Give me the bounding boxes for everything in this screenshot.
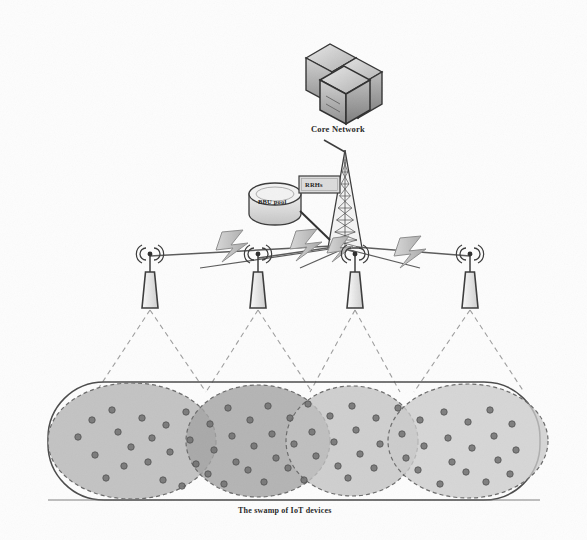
iot-device-dot — [441, 409, 447, 415]
iot-device-dot — [421, 443, 427, 449]
iot-device-dot — [225, 405, 231, 411]
iot-device-dot — [269, 431, 275, 437]
swarm-caption: The swamp of IoT devices — [238, 506, 332, 515]
iot-device-dot — [75, 434, 81, 440]
iot-device-dot — [399, 431, 405, 437]
iot-device-dot — [287, 415, 293, 421]
iot-device-dot — [167, 449, 173, 455]
antenna-4 — [456, 245, 483, 308]
core-network-label: Core Network — [311, 124, 365, 134]
iot-device-dot — [92, 452, 98, 458]
coverage-beams — [96, 310, 524, 392]
iot-device-dot — [371, 465, 377, 471]
iot-device-dot — [145, 459, 151, 465]
iot-device-dot — [345, 475, 351, 481]
antenna-2 — [244, 245, 271, 308]
iot-device-dot — [309, 429, 315, 435]
iot-device-dot — [207, 421, 213, 427]
iot-device-dot — [251, 443, 257, 449]
iot-device-dot — [163, 422, 169, 428]
iot-device-dot — [205, 471, 211, 477]
iot-device-dot — [273, 455, 279, 461]
iot-device-dot — [335, 463, 341, 469]
iot-device-dot — [265, 403, 271, 409]
iot-device-dot — [353, 427, 359, 433]
fronthaul-bolt-4 — [394, 236, 426, 268]
iot-device-dot — [509, 421, 515, 427]
iot-device-dot — [513, 447, 519, 453]
iot-device-dot — [403, 455, 409, 461]
iot-device-dot — [261, 479, 267, 485]
iot-device-dot — [233, 459, 239, 465]
fronthaul-bolt-2 — [290, 229, 322, 261]
iot-device-dot — [179, 483, 185, 489]
iot-device-dot — [121, 463, 127, 469]
iot-device-dot — [305, 401, 311, 407]
bbu-pool-label: BBU pool — [258, 198, 287, 205]
iot-device-dot — [109, 407, 115, 413]
lattice-tower — [328, 150, 362, 248]
iot-device-dot — [115, 429, 121, 435]
iot-device-dot — [128, 444, 134, 450]
antenna-3 — [341, 245, 368, 308]
diagram-canvas: Core Network BBU pool RRHs The swamp of … — [0, 0, 587, 540]
iot-device-dot — [507, 471, 513, 477]
iot-device-dot — [449, 459, 455, 465]
core-network-servers — [306, 44, 382, 124]
iot-device-dot — [89, 417, 95, 423]
iot-device-dot — [247, 417, 253, 423]
coverage-cell-4 — [388, 384, 548, 498]
iot-device-dot — [437, 481, 443, 487]
iot-device-dot — [139, 415, 145, 421]
rrhs-label: RRHs — [305, 181, 323, 188]
iot-device-dot — [285, 465, 291, 471]
iot-device-dot — [373, 415, 379, 421]
iot-device-dot — [313, 453, 319, 459]
iot-device-dot — [415, 467, 421, 473]
iot-device-dot — [377, 441, 383, 447]
iot-device-dot — [193, 461, 199, 467]
iot-device-dot — [103, 475, 109, 481]
iot-device-dot — [149, 435, 155, 441]
iot-device-dot — [211, 447, 217, 453]
iot-device-dot — [357, 451, 363, 457]
iot-device-dot — [349, 403, 355, 409]
iot-device-dot — [245, 467, 251, 473]
iot-device-dot — [487, 407, 493, 413]
iot-device-dot — [187, 437, 193, 443]
iot-device-dot — [491, 433, 497, 439]
iot-device-dot — [183, 409, 189, 415]
coverage-cells — [48, 383, 548, 499]
iot-device-dot — [395, 405, 401, 411]
iot-device-dot — [483, 479, 489, 485]
diagram-svg — [0, 0, 587, 540]
iot-device-dot — [327, 413, 333, 419]
iot-device-dot — [291, 441, 297, 447]
iot-device-dot — [465, 419, 471, 425]
iot-device-dot — [160, 477, 166, 483]
core-to-tower-link — [324, 140, 345, 152]
iot-device-dot — [331, 439, 337, 445]
iot-device-dot — [417, 417, 423, 423]
iot-device-dot — [495, 457, 501, 463]
iot-device-dot — [469, 445, 475, 451]
iot-device-dot — [463, 469, 469, 475]
antenna-1 — [136, 245, 163, 308]
iot-device-dot — [229, 433, 235, 439]
iot-device-dot — [301, 477, 307, 483]
iot-device-dot — [445, 435, 451, 441]
iot-device-dot — [221, 481, 227, 487]
fronthaul-bolt-1 — [216, 230, 248, 262]
